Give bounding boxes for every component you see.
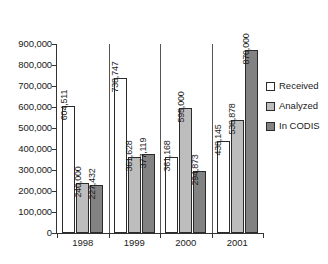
x-axis-tick-mark (160, 233, 161, 238)
bar-chart: 0100,000200,000300,000400,000500,000600,… (0, 0, 328, 264)
bar: 377,119 (142, 154, 155, 233)
bar-group: 738,747361,628377,119 (109, 44, 161, 233)
y-axis-tick-label: 300,000 (0, 165, 52, 175)
y-axis-tick-label: 100,000 (0, 207, 52, 217)
y-axis-tick-label: 0 (0, 228, 52, 238)
x-axis-tick-mark (263, 233, 264, 238)
y-axis-tick-mark (52, 149, 57, 150)
bar-value-label: 361,628 (125, 140, 134, 171)
y-axis-tick-mark (52, 170, 57, 171)
bar-group: 604,511240,000227,432 (57, 44, 109, 233)
y-axis-tick-label: 500,000 (0, 123, 52, 133)
bar: 538,878 (231, 120, 244, 233)
x-axis-category-label: 2000 (163, 238, 209, 248)
group-separator (109, 44, 110, 233)
group-separator (160, 44, 161, 233)
bar-value-label: 361,168 (163, 141, 172, 172)
x-axis-tick-mark (109, 233, 110, 238)
bar-group: 361,168595,000294,873 (160, 44, 212, 233)
bar-value-label: 294,873 (191, 155, 200, 186)
legend-swatch-icon (266, 102, 275, 111)
x-axis-tick-mark (212, 233, 213, 238)
legend-label: In CODIS (279, 121, 320, 131)
bar: 870,000 (245, 50, 258, 233)
bar-value-label: 240,000 (74, 166, 83, 197)
bar-value-label: 738,747 (111, 61, 120, 92)
y-axis-tick-label: 400,000 (0, 144, 52, 154)
bar-value-label: 227,432 (88, 169, 97, 200)
legend-item: Analyzed (266, 98, 328, 114)
y-axis-tick-mark (52, 44, 57, 45)
legend-swatch-icon (266, 82, 275, 91)
y-axis-tick-label: 600,000 (0, 102, 52, 112)
y-axis-tick-label: 800,000 (0, 60, 52, 70)
bar: 227,432 (90, 185, 103, 233)
y-axis-tick-mark (52, 128, 57, 129)
x-axis-category-label: 2001 (214, 238, 260, 248)
bar-value-label: 377,119 (139, 138, 148, 168)
y-axis-tick-mark (52, 107, 57, 108)
bar-value-label: 538,878 (228, 103, 237, 134)
y-axis-tick-label: 700,000 (0, 81, 52, 91)
y-axis-tick-mark (52, 86, 57, 87)
bar: 361,168 (165, 157, 178, 233)
plot-area: 604,511240,000227,432738,747361,628377,1… (57, 44, 263, 233)
chart-legend: ReceivedAnalyzedIn CODIS (266, 78, 328, 138)
y-axis-tick-mark (52, 65, 57, 66)
y-axis-tick-labels: 0100,000200,000300,000400,000500,000600,… (0, 0, 52, 264)
legend-item: In CODIS (266, 118, 328, 134)
bar: 361,628 (128, 157, 141, 233)
bar-value-label: 438,145 (214, 124, 223, 155)
legend-swatch-icon (266, 122, 275, 131)
legend-label: Received (279, 81, 319, 91)
bar: 294,873 (193, 171, 206, 233)
bar-value-label: 595,000 (177, 91, 186, 122)
bar-value-label: 604,511 (60, 90, 69, 120)
y-axis-tick-mark (52, 212, 57, 213)
y-axis-tick-label: 200,000 (0, 186, 52, 196)
bar-group: 438,145538,878870,000 (212, 44, 264, 233)
y-axis-tick-mark (52, 191, 57, 192)
x-axis-category-label: 1999 (111, 238, 157, 248)
legend-item: Received (266, 78, 328, 94)
bar-value-label: 870,000 (242, 34, 251, 65)
x-axis-tick-mark (57, 233, 58, 238)
x-axis-category-label: 1998 (60, 238, 106, 248)
group-separator (212, 44, 213, 233)
y-axis-tick-label: 900,000 (0, 39, 52, 49)
legend-label: Analyzed (279, 101, 318, 111)
bar: 438,145 (217, 141, 230, 233)
